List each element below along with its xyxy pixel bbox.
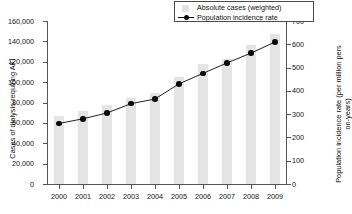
right-tick-label: 100	[292, 157, 318, 164]
x-tick-mark	[107, 185, 108, 189]
right-tick-label: 300	[292, 111, 318, 118]
line-marker-2007	[224, 60, 230, 66]
x-tick-mark	[131, 185, 132, 189]
x-tick-mark	[155, 185, 156, 189]
right-tick-label: 600	[292, 41, 318, 48]
x-tick-label-2009: 2009	[260, 193, 290, 201]
left-tick-label: 100,000	[0, 79, 34, 86]
x-tick-mark	[203, 185, 204, 189]
left-tick-label: 60,000	[0, 119, 34, 126]
right-axis-title: Population incidence rate (per million p…	[334, 39, 352, 189]
line-marker-2009	[272, 39, 278, 45]
x-tick-mark	[251, 185, 252, 189]
chart-legend: Absolute cases (weighted) Population inc…	[174, 1, 314, 22]
right-tick-mark	[287, 114, 291, 115]
left-tick-label: 20,000	[0, 160, 34, 167]
right-tick-label: 500	[292, 64, 318, 71]
right-tick-mark	[287, 44, 291, 45]
line-marker-2005	[176, 81, 182, 87]
line-marker-2006	[200, 71, 206, 77]
right-tick-mark	[287, 184, 291, 185]
line-marker-2002	[104, 110, 110, 116]
right-tick-mark	[287, 137, 291, 138]
left-tick-label: 0	[0, 181, 34, 188]
x-tick-mark	[179, 185, 180, 189]
left-tick-label: 40,000	[0, 140, 34, 147]
line-marker-2000	[56, 121, 62, 127]
line-series	[47, 21, 287, 185]
x-tick-mark	[59, 185, 60, 189]
right-tick-label: 0	[292, 181, 318, 188]
plot-area: 020,00040,00060,00080,000100,000120,0001…	[47, 21, 287, 185]
right-tick-mark	[287, 68, 291, 69]
line-marker-2008	[248, 50, 254, 56]
legend-label-absolute-cases: Absolute cases (weighted)	[197, 4, 281, 12]
right-tick-label: 200	[292, 134, 318, 141]
right-tick-label: 400	[292, 87, 318, 94]
legend-label-incidence-rate: Population incidence rate	[197, 14, 278, 22]
x-tick-mark	[83, 185, 84, 189]
legend-swatch-line-marker-icon	[178, 14, 194, 22]
left-tick-label: 140,000	[0, 38, 34, 45]
legend-swatch-bar-icon	[178, 4, 194, 12]
right-tick-mark	[287, 161, 291, 162]
legend-item-incidence-rate: Population incidence rate	[178, 13, 310, 22]
right-tick-mark	[287, 91, 291, 92]
legend-item-absolute-cases: Absolute cases (weighted)	[178, 3, 310, 12]
line-marker-2004	[152, 96, 158, 102]
left-tick-label: 80,000	[0, 99, 34, 106]
x-tick-mark	[227, 185, 228, 189]
x-tick-mark	[275, 185, 276, 189]
left-tick-label: 160,000	[0, 18, 34, 25]
left-tick-label: 120,000	[0, 58, 34, 65]
line-marker-2001	[80, 116, 86, 122]
